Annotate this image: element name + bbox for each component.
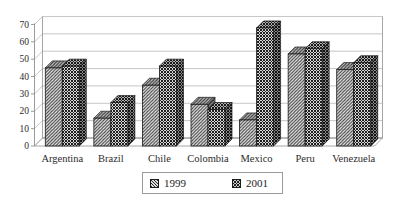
legend-item-2001: 2001 <box>232 178 268 189</box>
bar-brazil-2001-side-shade <box>128 96 135 146</box>
legend-label-1999: 1999 <box>164 178 186 189</box>
legend-item-1999: 1999 <box>150 178 186 189</box>
y-tick-label-0: 0 <box>24 141 29 151</box>
bar-peru-2001 <box>305 49 322 146</box>
y-tick-label-10: 10 <box>20 124 30 134</box>
x-label-mexico: Mexico <box>241 153 273 164</box>
bar-chile-2001-side-shade <box>176 59 183 146</box>
grid-connector-60 <box>35 34 43 42</box>
x-label-chile: Chile <box>148 153 171 164</box>
bar-colombia-1999 <box>191 104 208 146</box>
x-label-argentina: Argentina <box>41 153 83 164</box>
bar-argentina-2001-side-shade <box>79 59 86 146</box>
bar-peru-1999 <box>288 54 305 146</box>
bar-peru-2001-side-shade <box>322 42 329 146</box>
legend-label-2001: 2001 <box>246 178 268 189</box>
bar-venezuela-2001 <box>354 63 371 146</box>
x-label-colombia: Colombia <box>187 153 229 164</box>
bar-argentina-2001 <box>62 66 79 146</box>
chart: 010203040506070ArgentinaBrazilChileColom… <box>0 0 401 204</box>
bar-venezuela-2001-side-shade <box>371 56 378 146</box>
x-label-venezuela: Venezuela <box>332 153 375 164</box>
y-tick-label-40: 40 <box>20 72 30 82</box>
x-label-peru: Peru <box>296 153 316 164</box>
y-tick-label-50: 50 <box>20 54 30 64</box>
bar-argentina-1999 <box>45 68 62 146</box>
bar-colombia-2001 <box>208 110 225 146</box>
legend-marker-1999-icon <box>150 179 159 188</box>
grid-connector-50 <box>35 51 43 59</box>
bar-brazil-2001 <box>111 103 128 146</box>
bar-brazil-1999 <box>94 118 111 146</box>
grid-connector-40 <box>35 69 43 77</box>
grid-connector-10 <box>35 121 43 129</box>
x-label-brazil: Brazil <box>98 153 124 164</box>
bar-colombia-2001-side-shade <box>225 103 232 146</box>
y-tick-label-30: 30 <box>20 89 30 99</box>
legend-marker-2001-icon <box>232 179 241 188</box>
bar-mexico-2001-side-shade <box>274 21 281 146</box>
y-tick-label-70: 70 <box>20 20 30 30</box>
y-tick-label-20: 20 <box>20 106 30 116</box>
bar-chile-1999 <box>142 85 159 146</box>
grid-connector-70 <box>35 16 43 24</box>
grid-connector-20 <box>35 103 43 111</box>
bar-mexico-1999 <box>240 120 257 146</box>
grid-connector-30 <box>35 86 43 94</box>
bar-venezuela-1999 <box>337 70 354 146</box>
bar-mexico-2001 <box>257 28 274 146</box>
y-tick-label-60: 60 <box>20 37 30 47</box>
legend: 1999 2001 <box>142 172 283 194</box>
bar-chile-2001 <box>159 66 176 146</box>
